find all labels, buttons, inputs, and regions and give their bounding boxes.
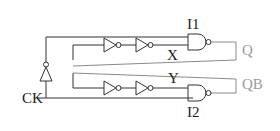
circuit-diagram: CK I1 I2 X Y Q QB <box>0 0 280 131</box>
gate-i1-label: I1 <box>187 16 200 32</box>
bottom-feedback-entry <box>73 73 104 88</box>
output-qb-label: QB <box>242 76 263 92</box>
inverter-bottom-1-icon <box>104 81 121 95</box>
q-feedback-wire <box>73 42 236 66</box>
inverter-top-2-icon <box>136 38 153 52</box>
node-x-label: X <box>167 47 178 63</box>
qb-feedback-wire <box>73 73 236 93</box>
clock-inverter-icon <box>40 62 52 81</box>
output-q-label: Q <box>242 42 253 58</box>
top-feedback-entry <box>73 45 104 60</box>
nand-gate-i2-icon <box>188 85 211 101</box>
node-y-label: Y <box>168 70 179 86</box>
inverter-top-1-icon <box>104 38 121 52</box>
inverter-bottom-2-icon <box>136 81 153 95</box>
ck-label: CK <box>22 90 43 106</box>
gate-i2-label: I2 <box>187 104 200 120</box>
nand-gate-i1-icon <box>188 34 211 50</box>
